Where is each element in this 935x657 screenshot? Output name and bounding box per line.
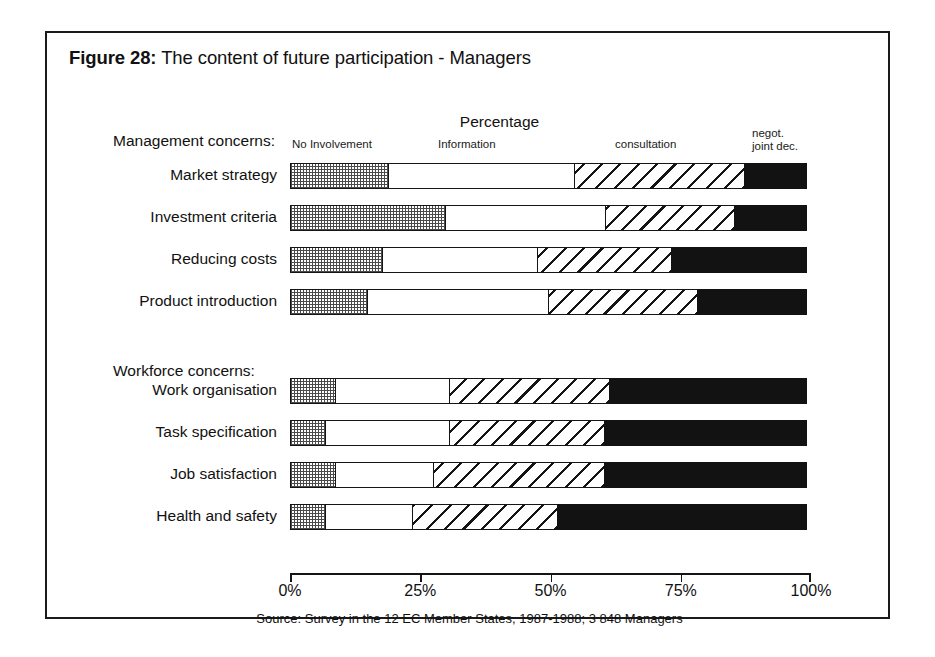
bar-segment-negot-joint-dec	[744, 163, 807, 189]
axis-tick-label: 0%	[278, 582, 301, 600]
bar-segment-no-involvement	[290, 163, 389, 189]
bar-segment-information	[325, 420, 450, 446]
axis-tick-label: 25%	[404, 582, 436, 600]
bar-segment-information	[367, 289, 549, 315]
bar-segment-information	[335, 462, 434, 488]
bar-segment-consultation	[548, 289, 699, 315]
bar-segment-no-involvement	[290, 420, 326, 446]
axis-tick	[681, 573, 683, 582]
figure-number: Figure 28:	[69, 47, 156, 68]
bar-segment-no-involvement	[290, 504, 326, 530]
bar-segment-consultation	[537, 247, 672, 273]
axis-tick-label: 50%	[534, 582, 566, 600]
group-heading-workforce: Workforce concerns:	[113, 362, 255, 380]
bar-segment-consultation	[449, 378, 611, 404]
row-label: Market strategy	[47, 166, 277, 184]
column-header-negotiation-line2: joint dec.	[752, 140, 798, 153]
row-label: Reducing costs	[47, 250, 277, 268]
figure-frame: Figure 28: The content of future partici…	[45, 31, 890, 619]
column-header-information: Information	[438, 138, 496, 151]
bar-segment-information	[335, 378, 450, 404]
bar-row	[290, 420, 811, 446]
bar-row	[290, 163, 811, 189]
bar-segment-information	[325, 504, 414, 530]
x-axis	[290, 573, 811, 582]
column-header-consultation: consultation	[615, 138, 676, 151]
bar-segment-no-involvement	[290, 462, 337, 488]
bar-row	[290, 289, 811, 315]
group-heading-management: Management concerns:	[113, 132, 275, 150]
bar-segment-negot-joint-dec	[609, 378, 807, 404]
column-header-band: No Involvement Information consultation …	[290, 33, 811, 621]
bar-segment-negot-joint-dec	[557, 504, 807, 530]
bar-segment-information	[445, 205, 607, 231]
column-header-negotiation-line1: negot.	[752, 127, 798, 140]
bar-row	[290, 247, 811, 273]
bar-segment-negot-joint-dec	[671, 247, 806, 273]
column-header-no-involvement: No Involvement	[292, 138, 372, 151]
bar-segment-consultation	[605, 205, 735, 231]
bar-segment-no-involvement	[290, 247, 384, 273]
axis-tick	[551, 573, 553, 582]
bar-segment-information	[382, 247, 538, 273]
bar-row	[290, 504, 811, 530]
bar-row	[290, 462, 811, 488]
bar-segment-consultation	[412, 504, 558, 530]
bar-segment-consultation	[449, 420, 605, 446]
bar-segment-negot-joint-dec	[697, 289, 806, 315]
axis-tick-label: 75%	[665, 582, 697, 600]
axis-tick	[290, 573, 292, 582]
source-note: Source: Survey in the 12 EC Member State…	[47, 611, 892, 626]
bar-segment-negot-joint-dec	[734, 205, 807, 231]
bar-segment-no-involvement	[290, 289, 368, 315]
column-header-negotiation: negot. joint dec.	[752, 127, 798, 153]
axis-tick	[420, 573, 422, 582]
bar-segment-no-involvement	[290, 378, 337, 404]
bar-segment-consultation	[433, 462, 605, 488]
row-label: Health and safety	[47, 507, 277, 525]
bar-segment-information	[388, 163, 576, 189]
bar-segment-negot-joint-dec	[604, 420, 807, 446]
bar-segment-no-involvement	[290, 205, 446, 231]
bar-segment-consultation	[574, 163, 746, 189]
row-label: Investment criteria	[47, 208, 277, 226]
row-label: Product introduction	[47, 292, 277, 310]
bar-row	[290, 378, 811, 404]
row-label: Task specification	[47, 423, 277, 441]
row-label: Work organisation	[47, 381, 277, 399]
axis-tick-label: 100%	[791, 582, 832, 600]
bar-segment-negot-joint-dec	[604, 462, 807, 488]
axis-tick	[809, 573, 811, 582]
bar-row	[290, 205, 811, 231]
row-label: Job satisfaction	[47, 465, 277, 483]
